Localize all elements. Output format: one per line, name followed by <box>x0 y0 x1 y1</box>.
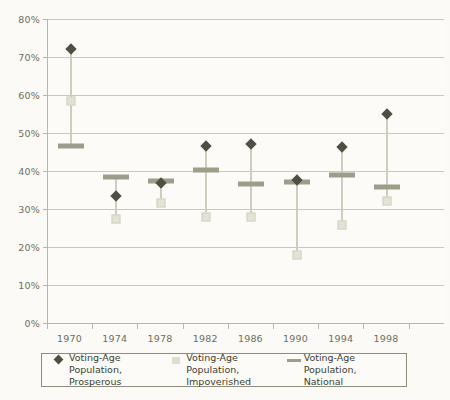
data-point-prosperous[interactable] <box>381 108 392 119</box>
y-tick-mark <box>43 133 48 134</box>
x-tick-mark <box>409 323 410 329</box>
data-point-impoverished[interactable] <box>337 221 346 230</box>
data-point-national[interactable] <box>374 185 400 190</box>
data-point-prosperous[interactable] <box>201 141 212 152</box>
x-tick-mark <box>47 323 48 329</box>
data-point-prosperous[interactable] <box>336 141 347 152</box>
data-point-impoverished[interactable] <box>292 251 301 260</box>
data-point-prosperous[interactable] <box>110 191 121 202</box>
x-axis-tick-label: 1998 <box>363 333 409 344</box>
y-axis-tick-label: 10% <box>2 280 40 291</box>
y-axis-tick-label: 20% <box>2 242 40 253</box>
x-tick-mark <box>137 323 138 329</box>
y-axis-tick-label: 40% <box>2 166 40 177</box>
square-marker-icon <box>171 355 181 365</box>
data-point-prosperous[interactable] <box>246 139 257 150</box>
plot-area <box>47 19 444 324</box>
gridline <box>48 133 444 134</box>
data-point-impoverished[interactable] <box>111 214 120 223</box>
gridline <box>48 171 444 172</box>
data-point-impoverished[interactable] <box>66 96 75 105</box>
gridline <box>48 247 444 248</box>
x-tick-mark <box>228 323 229 329</box>
data-point-impoverished[interactable] <box>157 199 166 208</box>
range-connector-line <box>250 144 252 216</box>
legend-item-impoverished[interactable]: Voting-Age Population, Impoverished <box>165 352 282 388</box>
chart-legend: Voting-Age Population, Prosperous Voting… <box>41 353 407 387</box>
y-axis-tick-label: 80% <box>2 14 40 25</box>
data-point-national[interactable] <box>193 167 219 172</box>
y-axis-tick-label: 30% <box>2 204 40 215</box>
data-point-impoverished[interactable] <box>247 212 256 221</box>
data-point-national[interactable] <box>329 172 355 177</box>
y-tick-mark <box>43 171 48 172</box>
legend-item-national[interactable]: Voting-Age Population, National <box>283 352 400 388</box>
y-axis-tick-label: 70% <box>2 52 40 63</box>
gridline <box>48 209 444 210</box>
range-connector-line <box>205 146 207 216</box>
y-axis-tick-label: 0% <box>2 318 40 329</box>
gridline <box>48 57 444 58</box>
x-tick-mark <box>92 323 93 329</box>
bar-marker-icon <box>289 355 299 365</box>
y-tick-mark <box>43 285 48 286</box>
y-tick-mark <box>43 57 48 58</box>
y-axis-tick-label: 50% <box>2 128 40 139</box>
legend-label: Voting-Age Population, Impoverished <box>186 352 282 388</box>
y-axis-tick-label: 60% <box>2 90 40 101</box>
legend-label: Voting-Age Population, National <box>304 352 400 388</box>
data-point-prosperous[interactable] <box>65 44 76 55</box>
x-axis-tick-label: 1978 <box>137 333 183 344</box>
data-point-national[interactable] <box>103 175 129 180</box>
x-axis-tick-label: 1970 <box>47 333 93 344</box>
range-connector-line <box>341 147 343 225</box>
x-axis-tick-label: 1994 <box>318 333 364 344</box>
x-axis-tick-label: 1974 <box>92 333 138 344</box>
legend-label: Voting-Age Population, Prosperous <box>69 352 165 388</box>
x-tick-mark <box>273 323 274 329</box>
gridline <box>48 285 444 286</box>
data-point-impoverished[interactable] <box>383 197 392 206</box>
x-axis-tick-label: 1990 <box>273 333 319 344</box>
chart-figure: 0%10%20%30%40%50%60%70%80% 1970197419781… <box>0 0 450 400</box>
gridline <box>48 19 444 20</box>
x-tick-mark <box>183 323 184 329</box>
y-tick-mark <box>43 95 48 96</box>
x-tick-mark <box>318 323 319 329</box>
y-tick-mark <box>43 247 48 248</box>
legend-item-prosperous[interactable]: Voting-Age Population, Prosperous <box>48 352 165 388</box>
y-tick-mark <box>43 209 48 210</box>
y-tick-mark <box>43 19 48 20</box>
data-point-impoverished[interactable] <box>202 212 211 221</box>
data-point-national[interactable] <box>58 144 84 149</box>
x-axis-tick-label: 1982 <box>182 333 228 344</box>
data-point-national[interactable] <box>238 182 264 187</box>
gridline <box>48 95 444 96</box>
x-tick-mark <box>363 323 364 329</box>
x-axis-tick-label: 1986 <box>227 333 273 344</box>
range-connector-line <box>296 180 298 256</box>
diamond-marker-icon <box>54 355 64 365</box>
